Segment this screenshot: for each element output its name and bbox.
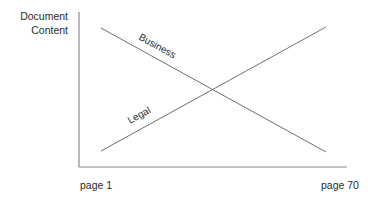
x-axis-end-label: page 70 — [321, 179, 359, 191]
legal-series-label: Legal — [126, 104, 153, 125]
business-line — [101, 28, 326, 152]
legal-line — [101, 27, 326, 151]
business-series-label: Business — [137, 31, 178, 60]
x-axis-start-label: page 1 — [80, 179, 112, 191]
chart-plot-area: Business Legal — [0, 0, 370, 201]
